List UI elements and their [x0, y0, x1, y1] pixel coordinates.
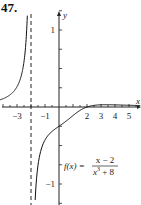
- curves: [0, 16, 140, 200]
- x-tick-label: 3: [99, 111, 104, 121]
- axes: [2, 11, 141, 205]
- y-axis-label: y: [62, 10, 67, 20]
- x-tick-label: 4: [113, 111, 118, 121]
- formula-numerator: x − 2: [96, 155, 115, 165]
- curve-left-branch: [0, 16, 27, 101]
- x-tick-label: 5: [127, 111, 132, 121]
- y-tick-label: 1: [51, 25, 56, 35]
- x-axis-label: x: [135, 96, 140, 106]
- function-graph: −3−123451−1xyf(x) =x − 2x3 + 8: [0, 0, 141, 205]
- formula-denominator: x3 + 8: [92, 166, 115, 177]
- function-formula: f(x) =x − 2x3 + 8: [64, 155, 118, 177]
- y-axis-arrow-icon: [57, 11, 61, 16]
- y-tick-label: −1: [45, 179, 55, 189]
- formula-lhs: f(x) =: [64, 161, 85, 171]
- x-tick-label: −1: [40, 111, 50, 121]
- x-tick-label: −3: [12, 111, 22, 121]
- x-tick-label: 2: [85, 111, 90, 121]
